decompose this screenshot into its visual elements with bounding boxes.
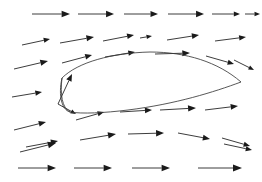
velocity-vector (124, 11, 158, 17)
velocity-vector (205, 104, 238, 110)
velocity-vector (12, 90, 42, 97)
velocity-vector (78, 11, 114, 17)
velocity-vector (18, 165, 56, 172)
velocity-vector (26, 140, 58, 148)
velocity-vector (62, 54, 92, 63)
velocity-vector (80, 132, 116, 140)
velocity-vector (105, 50, 135, 57)
velocity-vector (14, 60, 48, 69)
velocity-vector (167, 33, 199, 40)
velocity-vector (215, 35, 246, 41)
velocity-vector (198, 164, 242, 171)
vector-field-canvas (0, 0, 262, 182)
velocity-vector (20, 142, 56, 152)
velocity-vector (178, 133, 210, 141)
velocity-vector (234, 60, 254, 70)
airfoil-body (60, 52, 241, 113)
velocity-vector (160, 105, 196, 111)
velocity-vector (212, 12, 240, 17)
velocity-vector (60, 35, 94, 43)
velocity-vector (74, 165, 112, 172)
velocity-vector (168, 11, 204, 17)
velocity-vector (128, 130, 164, 136)
velocity-vector-layer (12, 11, 260, 172)
velocity-vector (140, 35, 152, 39)
airfoil-vector-field-figure (0, 0, 262, 182)
velocity-vector (22, 38, 50, 45)
velocity-vector (245, 12, 260, 16)
velocity-vector (103, 34, 134, 41)
velocity-vector (222, 138, 250, 147)
velocity-vector (14, 121, 46, 130)
velocity-vector (132, 165, 170, 172)
velocity-vector (32, 11, 70, 18)
